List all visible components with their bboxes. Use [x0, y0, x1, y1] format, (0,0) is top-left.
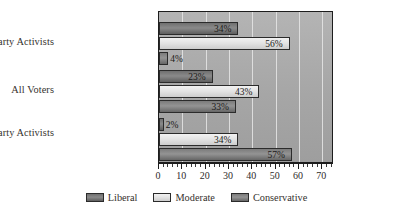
bar-value-label: 4%	[170, 53, 183, 66]
x-tick	[303, 164, 304, 167]
bar-moderate-group-2: 34%	[159, 133, 238, 146]
bar-value-label: 34%	[214, 134, 231, 147]
x-tick	[331, 164, 332, 167]
gridline-70	[322, 12, 323, 162]
x-tick	[233, 164, 234, 167]
category-label-democratic-party-activists: Democratic Party Activists	[0, 36, 54, 47]
x-tick-label-30: 30	[223, 170, 233, 181]
x-tick	[205, 164, 206, 169]
x-tick	[275, 164, 276, 169]
x-tick	[214, 164, 215, 167]
x-tick	[251, 164, 252, 169]
x-tick	[321, 164, 322, 169]
bar-conservative-group-0: 4%	[159, 52, 168, 65]
bar-value-label: 56%	[265, 38, 282, 51]
x-tick	[237, 164, 238, 167]
x-tick	[228, 164, 229, 169]
category-label-all-voters: All Voters	[0, 84, 54, 95]
x-tick	[158, 164, 159, 169]
legend-swatch-conservative	[231, 193, 249, 202]
legend-label-liberal: Liberal	[108, 192, 138, 203]
bar-value-label: 43%	[235, 86, 252, 99]
plot-area: 34%56%4%23%43%33%2%34%57%	[158, 11, 333, 163]
legend-label-conservative: Conservative	[253, 192, 307, 203]
legend-item-moderate[interactable]: Moderate	[153, 192, 214, 203]
bar-conservative-group-1: 33%	[159, 100, 236, 113]
x-tick	[191, 164, 192, 167]
legend-swatch-liberal	[86, 193, 104, 202]
x-tick	[167, 164, 168, 167]
category-label-republican-party-activists: Republican Party Activists	[0, 127, 54, 138]
legend: LiberalModerateConservative	[0, 192, 393, 203]
x-tick-label-60: 60	[293, 170, 303, 181]
bar-value-label: 33%	[212, 101, 229, 114]
x-tick	[163, 164, 164, 167]
gridline-50	[276, 12, 277, 162]
x-tick	[270, 164, 271, 167]
x-tick	[289, 164, 290, 167]
x-tick-label-10: 10	[176, 170, 186, 181]
bar-value-label: 57%	[268, 149, 285, 162]
x-tick	[242, 164, 243, 167]
bar-value-label: 23%	[188, 71, 205, 84]
x-tick	[265, 164, 266, 167]
x-tick	[284, 164, 285, 167]
x-tick	[261, 164, 262, 167]
x-tick	[219, 164, 220, 167]
x-tick	[200, 164, 201, 167]
x-tick-label-40: 40	[246, 170, 256, 181]
gridline-60	[299, 12, 300, 162]
bar-moderate-group-0: 56%	[159, 37, 290, 50]
x-tick	[317, 164, 318, 167]
x-tick	[312, 164, 313, 167]
x-tick	[209, 164, 210, 167]
x-tick	[256, 164, 257, 167]
bar-conservative-group-2: 57%	[159, 148, 292, 161]
x-tick	[247, 164, 248, 167]
bar-value-label: 2%	[166, 119, 179, 132]
x-tick	[298, 164, 299, 169]
bar-liberal-group-1: 23%	[159, 70, 213, 83]
bar-liberal-group-0: 34%	[159, 22, 238, 35]
x-tick	[177, 164, 178, 167]
legend-label-moderate: Moderate	[175, 192, 214, 203]
legend-item-conservative[interactable]: Conservative	[231, 192, 307, 203]
bar-moderate-group-1: 43%	[159, 85, 259, 98]
x-tick	[181, 164, 182, 169]
bar-liberal-group-2: 2%	[159, 118, 164, 131]
x-tick	[326, 164, 327, 167]
x-tick	[195, 164, 196, 167]
legend-swatch-moderate	[153, 193, 171, 202]
x-tick-label-50: 50	[270, 170, 280, 181]
bar-chart: Democratic Party Activists All Voters Re…	[0, 0, 393, 222]
x-tick	[223, 164, 224, 167]
x-tick	[279, 164, 280, 167]
x-tick-label-0: 0	[156, 170, 161, 181]
x-tick-label-20: 20	[200, 170, 210, 181]
x-tick	[307, 164, 308, 167]
x-tick	[172, 164, 173, 167]
x-tick	[186, 164, 187, 167]
bar-value-label: 34%	[214, 23, 231, 36]
x-tick	[293, 164, 294, 167]
legend-item-liberal[interactable]: Liberal	[86, 192, 138, 203]
x-tick-label-70: 70	[316, 170, 326, 181]
